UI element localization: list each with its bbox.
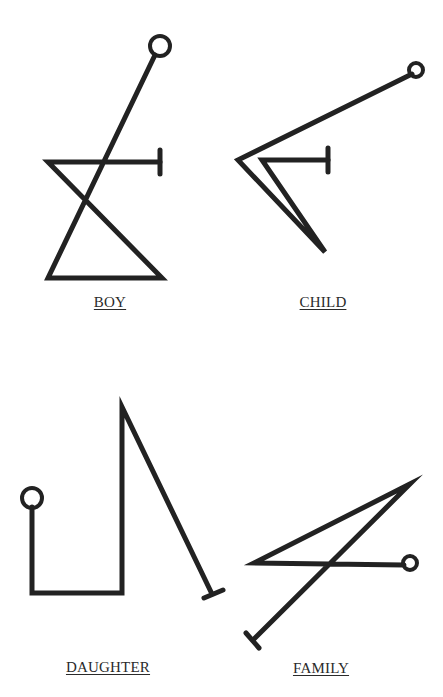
- daughter-stroke: [32, 407, 212, 594]
- boy-circle-terminal-icon: [150, 36, 170, 56]
- label-child: CHILD: [300, 294, 347, 311]
- child-circle-terminal-icon: [409, 63, 423, 77]
- sigil-child: [238, 63, 423, 252]
- sigil-figure: [0, 0, 443, 697]
- label-boy: BOY: [94, 294, 126, 311]
- sigil-daughter: [22, 407, 223, 598]
- sigil-boy: [48, 36, 170, 278]
- label-family: FAMILY: [293, 660, 349, 677]
- sigil-family: [246, 484, 417, 648]
- daughter-bar-terminal-icon: [204, 590, 223, 598]
- boy-stroke: [48, 55, 162, 278]
- child-stroke: [238, 74, 412, 252]
- family-stroke: [253, 484, 410, 640]
- label-daughter: DAUGHTER: [66, 659, 150, 676]
